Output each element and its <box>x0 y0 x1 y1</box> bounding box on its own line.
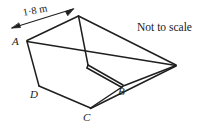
vertex-label-b: B <box>118 86 125 97</box>
edge-A-to-rear-top <box>27 16 79 41</box>
vertex-label-d: D <box>30 89 38 100</box>
edge-right-top-to-base-B <box>122 66 176 87</box>
vertex-label-c: C <box>83 112 90 123</box>
dimension-arrowhead-left <box>12 23 21 28</box>
not-to-scale-note: Not to scale <box>137 22 192 34</box>
edge-D-to-C <box>39 86 91 108</box>
outer-faces <box>27 42 176 109</box>
vertex-label-a: A <box>12 36 19 47</box>
edge-rear-top-to-base-rear <box>79 16 89 65</box>
skip-diagram: 1·8 m Not to scale A B C D <box>0 0 216 135</box>
base-end-cap-left <box>87 65 88 68</box>
edge-A-to-D <box>27 42 39 87</box>
base-edge-upper <box>88 65 123 85</box>
dimension-arrowhead-right <box>66 9 74 16</box>
edge-C-to-right-top <box>91 66 177 109</box>
base-edge-lower <box>87 68 122 88</box>
